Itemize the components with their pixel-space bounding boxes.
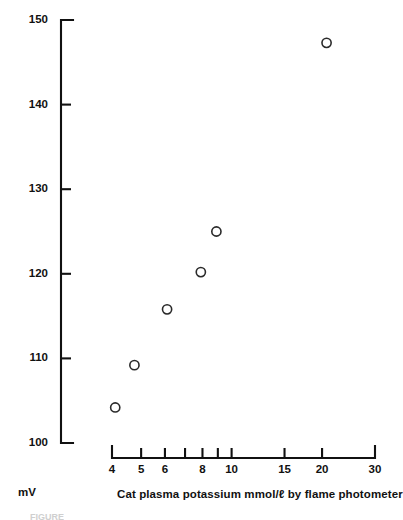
y-axis-unit-label: mV [18,486,36,498]
y-tick-label: 130 [29,182,48,194]
figure-caption: FIGURE [30,512,64,520]
x-axis-caption: Cat plasma potassium mmol/ℓ by flame pho… [117,488,403,500]
x-tick-label: 30 [369,463,382,475]
y-tick-label: 150 [29,13,48,25]
x-tick-label: 8 [199,463,206,475]
x-tick-label: 4 [109,463,116,475]
y-tick-label: 120 [29,267,48,279]
scatter-point [111,403,120,412]
scatter-point [196,268,205,277]
scatter-point [162,305,171,314]
data-points [111,38,332,412]
y-tick-label: 110 [29,351,48,363]
scatter-point [212,227,221,236]
scatter-point [130,361,139,370]
y-axis: 100110120130140150 [29,13,73,448]
x-tick-label: 15 [278,463,291,475]
x-axis: 456810152030 [109,446,382,475]
y-tick-label: 140 [29,98,48,110]
x-tick-label: 10 [225,463,238,475]
x-tick-label: 5 [138,463,145,475]
x-tick-label: 20 [316,463,329,475]
scatter-point [322,38,331,47]
x-tick-label: 6 [162,463,168,475]
y-tick-label: 100 [29,436,48,448]
